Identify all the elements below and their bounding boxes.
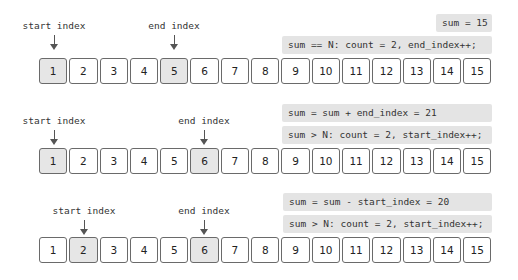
array-cell: 7 <box>221 237 249 263</box>
end-pointer: end index <box>163 205 245 230</box>
array-cell: 8 <box>251 237 279 263</box>
array-cell: 12 <box>372 237 400 263</box>
start-index-label: start index <box>53 205 116 217</box>
array-cell: 15 <box>463 237 491 263</box>
start-pointer: start index <box>43 205 125 230</box>
array-cell: 2 <box>69 237 97 263</box>
array-cell: 14 <box>433 237 461 263</box>
array-cell: 5 <box>160 237 188 263</box>
array-cell: 13 <box>403 237 431 263</box>
array-cell: 3 <box>100 237 128 263</box>
array-cell: 4 <box>130 237 158 263</box>
array-cells: 1 2 3 4 5 6 7 8 9 10 11 12 13 14 15 <box>39 237 491 263</box>
step-3: start index end index sum = sum - start_… <box>0 0 518 270</box>
array-cell: 9 <box>281 237 309 263</box>
array-cell: 1 <box>39 237 67 263</box>
down-arrow-icon <box>204 220 205 230</box>
end-index-label: end index <box>178 205 229 217</box>
down-arrow-icon <box>84 220 85 230</box>
array-cell: 11 <box>342 237 370 263</box>
sum-note: sum = sum - start_index = 20 <box>283 193 492 211</box>
condition-note: sum > N: count = 2, start_index++; <box>283 215 492 233</box>
array-cell: 6 <box>190 237 218 263</box>
array-cell: 10 <box>312 237 340 263</box>
